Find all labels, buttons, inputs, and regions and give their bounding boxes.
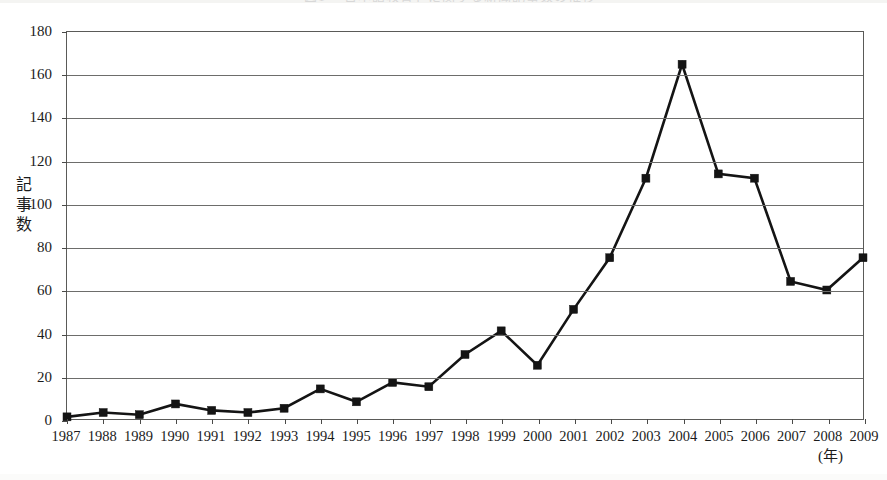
data-point-marker	[787, 277, 795, 285]
x-axis-tick-label: 2003	[632, 427, 661, 445]
x-axis-tick-label: 2006	[741, 427, 770, 445]
chart-figure: 図1 「日本語教育」に関する新聞記事数の推移 記事数 0204060801001…	[0, 0, 887, 480]
x-axis-tick-mark	[756, 419, 757, 424]
x-axis-tick-mark	[539, 419, 540, 424]
x-axis-tick-label: 2008	[813, 427, 842, 445]
chart-title: 図1 「日本語教育」に関する新聞記事数の推移	[120, 0, 780, 2]
y-axis-tick-label: 140	[30, 110, 53, 125]
x-axis-tick-label: 1998	[451, 427, 480, 445]
data-point-marker	[172, 400, 180, 408]
y-axis-tick-label: 60	[37, 283, 52, 298]
x-axis-tick-mark	[647, 419, 648, 424]
x-axis-tick-mark	[575, 419, 576, 424]
data-point-marker	[823, 286, 831, 294]
gridline	[67, 378, 863, 379]
y-axis-tick-labels: 020406080100120140160180	[0, 0, 60, 480]
data-point-marker	[208, 406, 216, 414]
x-axis-tick-label: 1989	[124, 427, 153, 445]
data-point-marker	[642, 174, 650, 182]
data-point-marker	[244, 409, 252, 417]
data-point-marker	[135, 411, 143, 419]
x-axis-tick-mark	[466, 419, 467, 424]
x-axis-tick-label: 1995	[342, 427, 371, 445]
x-axis-tick-label: 1987	[52, 427, 81, 445]
scan-edge-bottom	[0, 474, 887, 480]
x-axis-tick-mark	[502, 419, 503, 424]
gridline	[67, 118, 863, 119]
x-axis-tick-labels: 1987198819891990199119921993199419951996…	[0, 427, 887, 449]
y-axis-tick-label: 80	[37, 240, 52, 255]
data-point-marker	[714, 170, 722, 178]
data-point-marker	[425, 383, 433, 391]
x-axis-tick-mark	[357, 419, 358, 424]
data-point-marker	[352, 398, 360, 406]
series-line	[67, 64, 863, 417]
data-point-marker	[859, 254, 867, 262]
x-axis-tick-label: 2002	[596, 427, 625, 445]
x-axis-tick-mark	[865, 419, 866, 424]
x-axis-tick-mark	[829, 419, 830, 424]
x-axis-tick-label: 2004	[668, 427, 697, 445]
x-axis-tick-label: 2001	[559, 427, 588, 445]
y-axis-tick-label: 20	[37, 369, 52, 384]
data-point-marker	[280, 404, 288, 412]
gridline	[67, 205, 863, 206]
data-point-marker	[99, 409, 107, 417]
data-point-marker	[750, 174, 758, 182]
x-axis-tick-mark	[720, 419, 721, 424]
x-axis-tick-label: 1994	[305, 427, 334, 445]
y-axis-tick-label: 40	[37, 326, 52, 341]
x-axis-tick-mark	[248, 419, 249, 424]
x-axis-tick-label: 2009	[850, 427, 879, 445]
x-axis-tick-label: 2005	[704, 427, 733, 445]
data-point-marker	[606, 254, 614, 262]
data-point-marker	[570, 305, 578, 313]
x-axis-tick-mark	[611, 419, 612, 424]
x-axis-tick-label: 1999	[487, 427, 516, 445]
x-axis-tick-mark	[176, 419, 177, 424]
y-axis-tick-label: 180	[30, 24, 53, 39]
x-axis-tick-mark	[792, 419, 793, 424]
gridline	[67, 162, 863, 163]
x-axis-tick-label: 1997	[414, 427, 443, 445]
data-point-marker	[316, 385, 324, 393]
x-axis-tick-mark	[321, 419, 322, 424]
x-axis-tick-label: 1993	[269, 427, 298, 445]
gridline	[67, 248, 863, 249]
y-axis-tick-label: 100	[30, 196, 53, 211]
x-axis-tick-label: 1991	[197, 427, 226, 445]
gridline	[67, 291, 863, 292]
x-axis-unit-label: (年)	[818, 447, 843, 465]
x-axis-tick-label: 2000	[523, 427, 552, 445]
x-axis-tick-mark	[140, 419, 141, 424]
x-axis-tick-mark	[684, 419, 685, 424]
x-axis-tick-label: 1992	[233, 427, 262, 445]
y-axis-tick-label: 0	[45, 413, 53, 428]
x-axis-tick-mark	[67, 419, 68, 424]
x-axis-tick-mark	[212, 419, 213, 424]
plot-area	[66, 31, 864, 420]
x-axis-tick-label: 1988	[88, 427, 117, 445]
data-point-marker	[389, 378, 397, 386]
x-axis-tick-mark	[103, 419, 104, 424]
y-axis-tick-label: 160	[30, 67, 53, 82]
series-layer	[67, 32, 863, 419]
x-axis-tick-label: 1996	[378, 427, 407, 445]
y-axis-tick-mark	[62, 32, 67, 33]
data-point-marker	[461, 351, 469, 359]
x-axis-tick-mark	[393, 419, 394, 424]
x-axis-tick-mark	[285, 419, 286, 424]
y-axis-tick-label: 120	[30, 153, 53, 168]
gridline	[67, 75, 863, 76]
data-point-marker	[678, 60, 686, 68]
x-axis-tick-label: 1990	[160, 427, 189, 445]
x-axis-tick-mark	[430, 419, 431, 424]
x-axis-tick-label: 2007	[777, 427, 806, 445]
gridline	[67, 335, 863, 336]
data-point-marker	[533, 361, 541, 369]
